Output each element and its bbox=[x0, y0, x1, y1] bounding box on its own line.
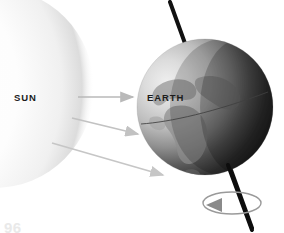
rotation-direction-arrow bbox=[203, 192, 261, 214]
rotation-axis-lower bbox=[228, 165, 252, 230]
sunlight-ray-3 bbox=[52, 143, 163, 175]
page-number: 96 bbox=[4, 219, 22, 233]
earth-label: EARTH bbox=[147, 92, 184, 103]
earth-globe-icon bbox=[137, 39, 280, 180]
earth-sun-diagram: SUN EARTH 96 bbox=[0, 0, 284, 233]
sun-label: SUN bbox=[14, 92, 37, 103]
diagram-canvas bbox=[0, 0, 284, 233]
